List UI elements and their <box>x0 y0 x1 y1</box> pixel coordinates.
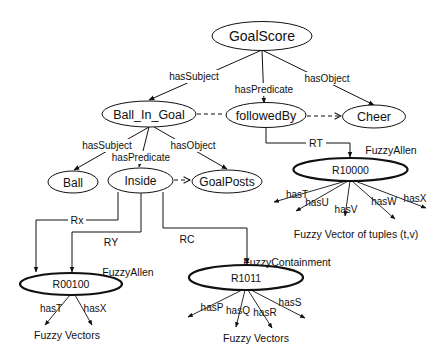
svg-text:Ball: Ball <box>63 176 83 190</box>
ry-label: RY <box>104 236 118 248</box>
rt-label: RT <box>309 137 323 149</box>
rx-label: Rx <box>71 214 85 226</box>
r10000-type-label: FuzzyAllen <box>365 144 417 156</box>
edge-label-has-subject: hasSubject <box>169 71 219 82</box>
r1011-type-label: FuzzyContainment <box>243 256 331 268</box>
prop-has-u: hasU <box>305 197 328 208</box>
node-goalposts: GoalPosts <box>192 170 262 193</box>
inside-connectors <box>36 192 247 272</box>
svg-text:Ball_In_Goal: Ball_In_Goal <box>113 108 185 122</box>
node-cheer: Cheer <box>343 105 406 128</box>
svg-text:R10000: R10000 <box>332 164 369 176</box>
prop-has-q: hasQ <box>226 305 250 316</box>
svg-text:R00100: R00100 <box>53 278 90 290</box>
diagram-canvas: hasSubject hasPredicate hasObject hasSub… <box>0 0 444 362</box>
rc-label: RC <box>179 233 195 245</box>
edge-label-has-object-2: hasObject <box>170 140 215 151</box>
node-ball-in-goal: Ball_In_Goal <box>102 101 196 127</box>
r10000-caption: Fuzzy Vector of tuples (t,v) <box>294 228 418 240</box>
svg-text:GoalScore: GoalScore <box>229 28 295 44</box>
prop-has-w: hasW <box>371 196 397 207</box>
node-r1011: R1011 <box>189 265 303 290</box>
node-ball: Ball <box>48 171 98 193</box>
r00100-caption: Fuzzy Vectors <box>34 329 100 341</box>
r00100-type-label: FuzzyAllen <box>102 266 154 278</box>
svg-text:Cheer: Cheer <box>357 110 391 124</box>
edge-label-has-subject-2: hasSubject <box>82 140 132 151</box>
prop-has-x: hasX <box>404 193 427 204</box>
prop-has-t-2: hasT <box>40 303 62 314</box>
fuzzy-event-diagram: hasSubject hasPredicate hasObject hasSub… <box>0 0 444 362</box>
goalscore-edge-labels: hasSubject hasPredicate hasObject <box>168 70 350 96</box>
prop-has-s: hasS <box>279 297 302 308</box>
prop-has-r: hasR <box>253 307 276 318</box>
r1011-property-labels: hasP hasQ hasR hasS <box>201 297 302 318</box>
node-goalscore: GoalScore <box>212 22 312 51</box>
prop-has-p: hasP <box>201 302 224 313</box>
prop-has-v: hasV <box>335 204 358 215</box>
edge-label-has-predicate-2: hasPredicate <box>112 152 171 163</box>
prop-has-x-2: hasX <box>84 303 107 314</box>
svg-text:R1011: R1011 <box>231 272 261 284</box>
node-r10000: R10000 <box>294 158 408 181</box>
r00100-property-labels: hasT hasX <box>40 303 107 314</box>
r1011-caption: Fuzzy Vectors <box>223 332 289 344</box>
svg-text:GoalPosts: GoalPosts <box>199 175 254 189</box>
node-followed-by: followedBy <box>226 103 306 128</box>
r10000-property-labels: hasT hasU hasV hasW hasX <box>286 189 427 215</box>
ball-in-goal-edge-labels: hasSubject hasPredicate hasObject <box>82 139 216 164</box>
node-inside: Inside <box>108 168 173 193</box>
svg-text:Inside: Inside <box>124 174 156 188</box>
svg-text:followedBy: followedBy <box>236 109 297 123</box>
edge-label-has-object: hasObject <box>304 73 349 84</box>
edge-label-has-predicate: hasPredicate <box>235 84 294 95</box>
